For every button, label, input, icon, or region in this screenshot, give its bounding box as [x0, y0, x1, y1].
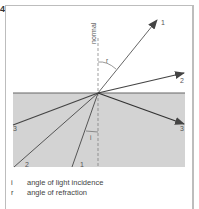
legend-symbol: i	[11, 178, 27, 188]
legend-text: angle of light incidence	[27, 178, 103, 188]
ray-1-out-label: 1	[161, 19, 165, 26]
legend: i angle of light incidence r angle of re…	[11, 178, 103, 198]
legend-text: angle of refraction	[27, 188, 87, 198]
ray-1-in-label: 1	[80, 161, 84, 168]
normal-label: normal	[90, 22, 97, 44]
ray-3-out-label: 3	[180, 125, 184, 132]
legend-item-i: i angle of light incidence	[11, 178, 103, 188]
ray-2-in-label: 2	[25, 161, 29, 168]
angle-i-label: i	[90, 134, 91, 141]
legend-symbol: r	[11, 188, 27, 198]
legend-item-r: r angle of refraction	[11, 188, 103, 198]
ray-2-out-label: 2	[180, 77, 184, 84]
medium-region	[13, 93, 185, 167]
ray-3-in-label: 3	[13, 125, 17, 132]
angle-r-label: r	[106, 57, 109, 64]
refracted-ray-2	[98, 73, 184, 93]
